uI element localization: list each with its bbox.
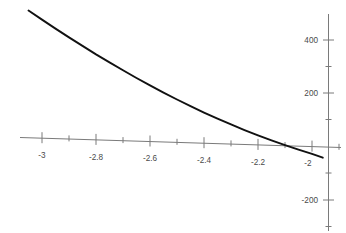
x-tick-label: -2 (304, 159, 312, 168)
chart-svg: -3 -2.8 -2.6 -2.4 -2.2 -2 400 200 -200 (0, 0, 346, 233)
x-axis-line (20, 138, 341, 148)
chart-plot-area: -3 -2.8 -2.6 -2.4 -2.2 -2 400 200 -200 (0, 0, 346, 233)
x-tick-label: -2.4 (197, 156, 212, 165)
x-tick-label: -3 (38, 151, 46, 160)
y-tick-label: -200 (302, 196, 319, 205)
x-tick-label: -2.2 (251, 158, 266, 167)
y-tick-label: 200 (304, 89, 318, 98)
y-tick-label: 400 (304, 36, 318, 45)
data-curve (29, 11, 323, 158)
x-tick-label: -2.6 (143, 154, 158, 163)
x-tick-label: -2.8 (89, 153, 104, 162)
